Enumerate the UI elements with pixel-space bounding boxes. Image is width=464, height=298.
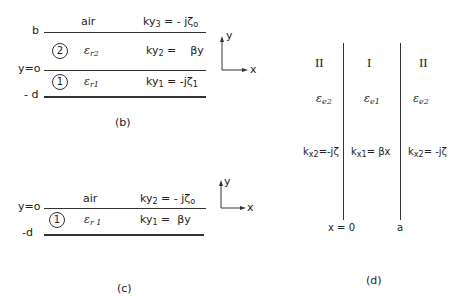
axis-y-label: y — [226, 30, 233, 42]
label-a: a — [397, 222, 403, 234]
boundary-a — [400, 43, 401, 220]
axis-x-label: x — [250, 64, 257, 76]
boundary-x0 — [343, 43, 344, 220]
ky1-equation: ky1 = βy — [140, 214, 191, 229]
eps-e1: εe1 — [364, 93, 380, 108]
boundary-neg-d — [44, 96, 206, 98]
ky1-equation: ky1 = -jζ1 — [146, 76, 198, 91]
ky3-equation: ky3 = - jζo — [143, 16, 198, 31]
eps-r1: εr 1 — [84, 214, 101, 229]
axis-x-label: x — [247, 202, 254, 214]
kx1-equation: kx1= βx — [351, 146, 390, 161]
axis-y-label: y — [224, 176, 231, 188]
caption-d: (d) — [366, 275, 382, 287]
layer-1-marker: 1 — [49, 212, 65, 228]
label-neg-d: - d — [24, 89, 38, 101]
boundary-neg-d — [44, 234, 204, 236]
kx2-left-equation: kx2=-jζ — [303, 146, 339, 161]
eps-r1: εr1 — [84, 76, 99, 91]
label-b: b — [32, 25, 39, 37]
boundary-y0 — [44, 208, 206, 209]
region-I: I — [367, 57, 371, 69]
air-label: air — [83, 193, 97, 205]
boundary-y0 — [44, 70, 206, 71]
boundary-b — [44, 32, 206, 33]
ky2-equation: ky2 = - jζo — [140, 193, 195, 208]
label-x0: x = 0 — [328, 222, 355, 234]
air-label: air — [81, 16, 95, 28]
layer-1-marker: 1 — [52, 74, 68, 90]
kx2-right-equation: kx2= -jζ — [408, 146, 447, 161]
eps-e2-left: εe2 — [316, 93, 332, 108]
layer-2-marker: 2 — [52, 43, 68, 59]
region-II-right: II — [419, 57, 428, 69]
caption-b: (b) — [115, 117, 131, 129]
label-neg-d: -d — [22, 227, 33, 239]
label-y0: y=o — [18, 63, 40, 75]
eps-r2: εr2 — [84, 45, 99, 60]
eps-e2-right: εe2 — [413, 93, 429, 108]
ky2-equation: ky2 = βy — [146, 45, 204, 60]
caption-c: (c) — [117, 283, 132, 295]
label-y0: y=o — [18, 201, 40, 213]
region-II-left: II — [315, 57, 324, 69]
